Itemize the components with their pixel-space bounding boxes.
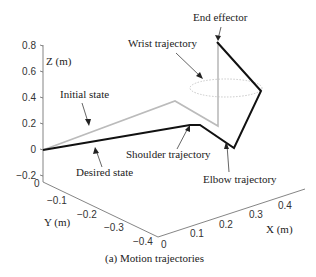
y-tick: −0.1 xyxy=(47,195,67,206)
y-tick: 0 xyxy=(34,178,40,189)
y-tick: −0.3 xyxy=(104,222,124,233)
wrist-trajectory-curve xyxy=(190,79,262,97)
annotation-shoulder-trajectory: Shoulder trajectory xyxy=(126,148,211,160)
x-axis: 0 0.1 0.2 0.3 0.4 X (m) xyxy=(158,189,305,250)
x-axis-label: X (m) xyxy=(266,223,293,236)
z-tick: 0.4 xyxy=(22,92,36,103)
chart-canvas: 0.8 0.6 0.4 0.2 0 −0.2 Z (m) 0 −0.1 −0.2… xyxy=(0,0,316,277)
annotation-wrist-trajectory: Wrist trajectory xyxy=(128,37,197,49)
z-tick: 0.8 xyxy=(22,40,36,51)
x-tick: 0 xyxy=(161,239,167,250)
x-tick: 0.4 xyxy=(278,200,292,211)
y-tick: −0.4 xyxy=(133,236,153,247)
x-tick: 0.1 xyxy=(190,228,204,239)
y-axis-label: Y (m) xyxy=(44,216,71,229)
annotation-elbow-trajectory: Elbow trajectory xyxy=(203,173,277,185)
annotation-end-effector: End effector xyxy=(193,11,248,23)
annotation-initial-state: Initial state xyxy=(60,88,109,100)
x-tick: 0.2 xyxy=(219,219,233,230)
figure-caption: (a) Motion trajectories xyxy=(105,252,204,265)
z-tick: 0.6 xyxy=(22,66,36,77)
y-axis: 0 −0.1 −0.2 −0.3 −0.4 Y (m) xyxy=(34,178,158,247)
z-axis-label: Z (m) xyxy=(46,55,72,68)
z-tick: 0.2 xyxy=(22,118,36,129)
y-tick: −0.2 xyxy=(77,209,97,220)
z-axis: 0.8 0.6 0.4 0.2 0 −0.2 Z (m) xyxy=(16,40,71,182)
z-tick: 0 xyxy=(30,144,36,155)
annotation-desired-state: Desired state xyxy=(76,166,133,178)
x-tick: 0.3 xyxy=(249,209,263,220)
annotations: End effector Wrist trajectory Initial st… xyxy=(60,11,277,185)
